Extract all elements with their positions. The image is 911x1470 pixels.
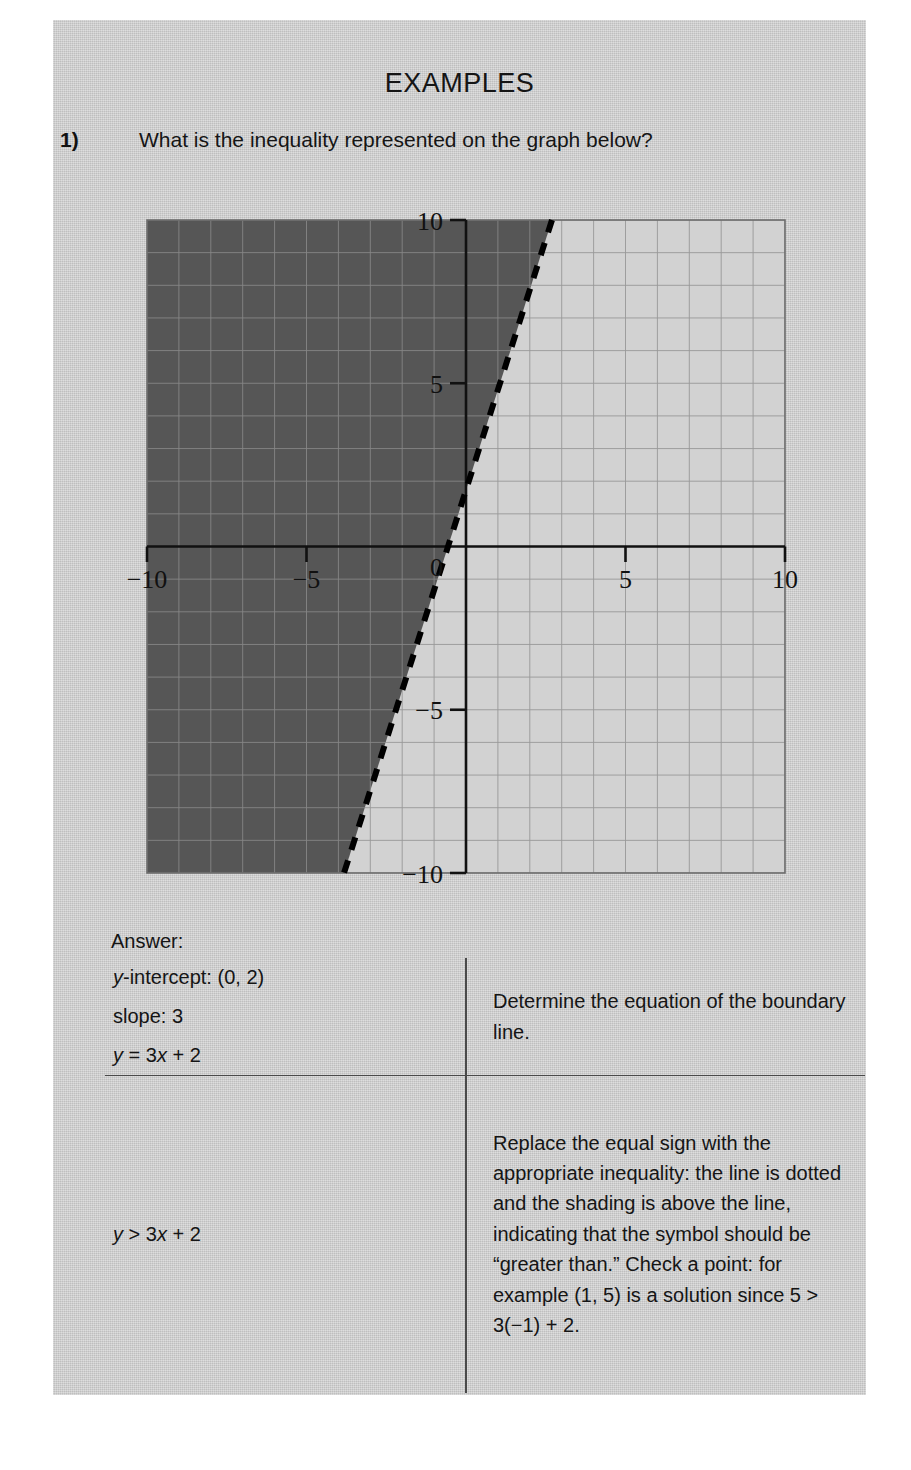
question-number: 1): [60, 128, 79, 152]
coordinate-plane-svg: −10 −5 5 10 0 10 5 −5 −10: [105, 203, 865, 908]
slope-line: slope: 3: [113, 997, 465, 1036]
xtick-label-neg10: −10: [127, 565, 168, 594]
y-intercept-line: y-intercept: (0, 2): [113, 958, 465, 997]
table-cell-explanation: Replace the equal sign with the appropri…: [467, 1128, 865, 1341]
xtick-label-5: 5: [619, 565, 632, 594]
ytick-label-5: 5: [430, 370, 443, 399]
table-cell-work: y-intercept: (0, 2) slope: 3 y = 3x + 2: [105, 958, 465, 1075]
inequality-line: y > 3x + 2: [113, 1215, 465, 1254]
ytick-label-neg5: −5: [415, 696, 443, 725]
table-row: y > 3x + 2 Replace the equal sign with t…: [105, 1075, 865, 1393]
worksheet-page: EXAMPLES 1) What is the inequality repre…: [53, 20, 866, 1395]
ytick-label-10: 10: [417, 207, 443, 236]
solution-table: y-intercept: (0, 2) slope: 3 y = 3x + 2 …: [105, 958, 865, 1393]
table-cell-explanation: Determine the equation of the boundary l…: [467, 986, 865, 1047]
ytick-label-neg10: −10: [402, 860, 443, 889]
question-row: 1) What is the inequality represented on…: [53, 128, 866, 160]
question-prompt: What is the inequality represented on th…: [139, 128, 653, 152]
table-row: y-intercept: (0, 2) slope: 3 y = 3x + 2 …: [105, 958, 865, 1075]
table-cell-work: y > 3x + 2: [105, 1215, 465, 1254]
page-title: EXAMPLES: [53, 68, 866, 99]
xtick-label-10: 10: [772, 565, 798, 594]
xtick-label-neg5: −5: [293, 565, 321, 594]
table-row-divider: [105, 1075, 865, 1076]
inequality-graph: −10 −5 5 10 0 10 5 −5 −10: [105, 203, 865, 908]
origin-label: 0: [430, 553, 443, 582]
answer-label: Answer:: [111, 930, 183, 953]
equation-line: y = 3x + 2: [113, 1036, 465, 1075]
